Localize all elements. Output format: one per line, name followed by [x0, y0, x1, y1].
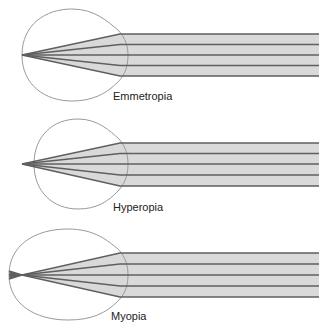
label-hyperopia: Hyperopia [113, 201, 164, 213]
label-emmetropia: Emmetropia [113, 90, 173, 102]
panel-emmetropia: Emmetropia [22, 9, 319, 102]
refraction-diagram: Emmetropia Hyperopia Myopia [0, 0, 329, 328]
panel-hyperopia: Hyperopia [22, 119, 319, 213]
panel-myopia: Myopia [9, 229, 319, 322]
label-myopia: Myopia [111, 310, 147, 322]
